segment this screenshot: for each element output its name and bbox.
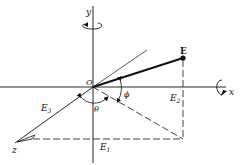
coordinate-diagram: y x z O E E1 E2 E3 θ ϕ (0, 0, 249, 165)
e2-label: E2 (169, 93, 181, 104)
y-axis-label: y (85, 7, 92, 17)
vector-e-label: E (180, 46, 187, 56)
theta-label: θ (94, 105, 99, 114)
z-axis-tick (17, 135, 35, 142)
plane-line (93, 50, 147, 87)
vector-e-tip (180, 55, 185, 60)
origin-label: O (86, 78, 93, 87)
phi-label: ϕ (124, 90, 130, 99)
e3-label: E3 (40, 103, 52, 114)
z-axis-label: z (11, 145, 17, 155)
phi-arc (118, 79, 121, 101)
theta-arc (80, 96, 107, 103)
x-rotation-icon (217, 80, 222, 95)
e1-label: E1 (99, 142, 110, 153)
vector-e (93, 58, 183, 87)
z-axis (15, 87, 93, 143)
x-axis-label: x (229, 87, 234, 97)
